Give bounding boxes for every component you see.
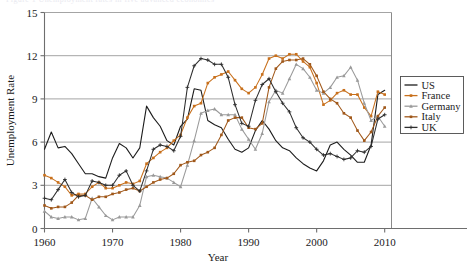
data-marker <box>166 177 169 180</box>
data-marker <box>118 184 121 187</box>
data-marker <box>362 101 366 104</box>
data-marker <box>343 112 346 115</box>
y-tick-label-12: 12 <box>27 50 38 62</box>
data-marker <box>179 164 182 167</box>
y-tick-label-6: 6 <box>32 136 38 148</box>
data-marker <box>294 62 298 65</box>
data-marker <box>152 157 155 160</box>
data-marker <box>288 77 292 80</box>
data-marker <box>241 116 244 119</box>
legend-label-germany: Germany <box>422 101 462 112</box>
data-marker <box>281 57 284 60</box>
data-marker <box>118 191 121 194</box>
data-marker <box>43 196 47 200</box>
data-marker <box>220 73 223 76</box>
data-marker <box>227 119 230 122</box>
series-line-italy <box>45 59 385 209</box>
data-marker <box>64 185 67 188</box>
data-marker <box>240 121 244 125</box>
data-marker <box>145 185 148 188</box>
data-marker <box>111 187 114 190</box>
data-marker <box>349 116 352 119</box>
legend-label-italy: Italy <box>422 111 442 122</box>
series-us <box>45 89 385 178</box>
data-marker <box>240 127 244 130</box>
data-marker <box>50 207 53 210</box>
data-marker <box>206 82 209 85</box>
data-marker <box>315 75 318 78</box>
x-tick-label-1980: 1980 <box>170 236 193 248</box>
data-marker <box>226 75 230 79</box>
data-marker <box>138 204 142 207</box>
data-marker <box>233 103 237 107</box>
data-marker <box>302 60 305 63</box>
y-axis-title: Unemployment Rate <box>4 75 16 166</box>
data-marker <box>370 131 373 134</box>
y-tick-label-9: 9 <box>32 93 38 105</box>
data-marker <box>288 59 291 62</box>
data-marker <box>410 116 413 119</box>
data-marker <box>192 139 196 142</box>
data-marker <box>260 132 264 135</box>
data-marker <box>200 154 203 157</box>
data-marker <box>377 115 380 118</box>
data-marker <box>125 188 128 191</box>
x-tick-label-1990: 1990 <box>238 236 261 248</box>
data-marker <box>295 53 298 56</box>
data-marker <box>343 89 346 92</box>
x-tick-label-2000: 2000 <box>306 236 329 248</box>
data-marker <box>234 116 237 119</box>
chart-legend: USFranceGermanyItalyUK <box>401 77 464 134</box>
data-marker <box>329 98 332 101</box>
data-marker <box>185 85 189 89</box>
data-marker <box>254 86 257 89</box>
data-marker <box>57 206 60 209</box>
data-marker <box>335 155 339 159</box>
data-marker <box>363 139 366 142</box>
data-marker <box>193 160 196 163</box>
data-marker <box>213 147 216 150</box>
data-marker <box>186 161 189 164</box>
data-marker <box>104 196 107 199</box>
data-marker <box>356 93 359 96</box>
x-tick-label-1960: 1960 <box>34 236 57 248</box>
data-marker <box>275 67 278 70</box>
data-marker <box>186 163 190 166</box>
data-marker <box>91 185 94 188</box>
data-marker <box>349 65 353 68</box>
data-marker <box>200 102 203 105</box>
data-marker <box>356 129 359 132</box>
data-marker <box>172 172 175 175</box>
data-marker <box>322 90 325 93</box>
legend-label-uk: UK <box>422 122 438 133</box>
data-marker <box>213 76 216 79</box>
x-tick-label-1970: 1970 <box>102 236 125 248</box>
data-marker <box>247 92 250 95</box>
data-marker <box>261 73 264 76</box>
data-marker <box>234 79 237 82</box>
data-marker <box>281 60 284 63</box>
data-marker <box>220 134 223 137</box>
data-marker <box>322 103 325 106</box>
data-marker <box>91 198 94 201</box>
data-marker <box>57 181 60 184</box>
data-marker <box>132 187 135 190</box>
data-marker <box>111 193 114 196</box>
data-marker <box>104 187 107 190</box>
data-marker <box>410 94 413 97</box>
data-marker <box>328 152 332 156</box>
data-marker <box>159 151 162 154</box>
data-marker <box>309 63 312 66</box>
chart-canvas: 03691215196019701980199020002010YearUnem… <box>0 0 467 265</box>
data-marker <box>336 92 339 95</box>
data-marker <box>206 151 209 154</box>
data-marker <box>295 59 298 62</box>
data-marker <box>220 62 224 66</box>
y-tick-label-15: 15 <box>27 7 39 19</box>
data-marker <box>145 162 148 165</box>
x-axis-title: Year <box>208 251 229 263</box>
data-marker <box>315 82 318 85</box>
data-marker <box>70 201 73 204</box>
data-marker <box>302 57 305 60</box>
legend-label-us: US <box>422 80 436 91</box>
